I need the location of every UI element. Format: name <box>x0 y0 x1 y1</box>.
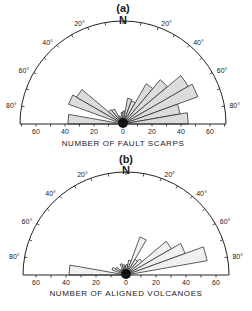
arc-tick <box>60 196 62 198</box>
angle-label-east: 40° <box>193 39 204 46</box>
arc-tick <box>224 257 227 258</box>
arc-tick <box>25 257 28 258</box>
panel-a-bars <box>68 76 198 129</box>
arc-tick <box>220 240 223 241</box>
x-tick-label: 20 <box>92 279 100 286</box>
angle-label-west: 40° <box>45 190 56 197</box>
angle-label-east: 20° <box>161 20 172 27</box>
arc-tick <box>105 23 106 26</box>
x-tick-label: 60 <box>32 128 40 135</box>
angle-label-east: 60° <box>217 67 228 74</box>
rose-diagram-figure: (a) N 20°20°40°40°60°60°80°80° 604020020… <box>0 0 252 311</box>
angle-label-west: 40° <box>42 39 53 46</box>
x-tick-label: 20 <box>148 128 156 135</box>
x-tick-label: 60 <box>206 128 214 135</box>
angle-label-east: 40° <box>196 190 207 197</box>
x-tick-label: 20 <box>152 279 160 286</box>
angle-label-west: 60° <box>19 67 30 74</box>
panel-b-axis-title: NUMBER OF ALIGNED VOLCANOES <box>49 289 202 298</box>
arc-tick <box>221 106 224 107</box>
arc-tick <box>47 209 49 211</box>
arc-tick <box>88 27 89 30</box>
arc-tick <box>200 58 202 60</box>
panel-a-angle-labels: 20°20°40°40°60°60°80°80° <box>6 20 240 108</box>
angle-label-east: 80° <box>232 253 243 260</box>
arc-tick <box>72 35 74 38</box>
panel-a-title: (a) <box>116 2 130 14</box>
x-tick-label: 40 <box>61 128 69 135</box>
arc-tick <box>173 35 175 38</box>
x-tick-label: 0 <box>121 128 125 135</box>
arc-tick <box>213 224 216 226</box>
x-tick-label: 60 <box>32 279 40 286</box>
arc-tick <box>187 45 189 47</box>
angle-label-east: 80° <box>229 102 240 109</box>
arc-tick <box>75 186 77 189</box>
angle-label-east: 60° <box>220 218 231 225</box>
arc-tick <box>160 178 161 181</box>
arc-tick <box>210 73 213 75</box>
arc-tick <box>143 174 144 177</box>
arc-tick <box>57 45 59 47</box>
arc-tick <box>44 58 46 60</box>
arc-tick <box>203 209 205 211</box>
panel-a-fault-scarps: (a) N 20°20°40°40°60°60°80°80° 604020020… <box>6 2 240 148</box>
arc-tick <box>34 73 37 75</box>
panel-a-x-tick-labels: 6040200204060 <box>32 128 214 135</box>
panel-b-aligned-volcanoes: (b) N 20°20°40°40°60°60°80°80° 604020020… <box>9 153 243 298</box>
panel-a-north-label: N <box>119 14 127 26</box>
arc-tick <box>108 174 109 177</box>
angle-label-west: 20° <box>74 20 85 27</box>
x-tick-label: 60 <box>212 279 220 286</box>
arc-tick <box>91 178 92 181</box>
arc-tick <box>22 106 25 107</box>
x-tick-label: 40 <box>62 279 70 286</box>
panel-b-angle-labels: 20°20°40°40°60°60°80°80° <box>9 171 243 259</box>
panel-a-axis-title: NUMBER OF FAULT SCARPS <box>62 139 185 148</box>
arc-tick <box>157 27 158 30</box>
x-tick-label: 40 <box>182 279 190 286</box>
arc-tick <box>217 89 220 90</box>
angle-label-west: 20° <box>77 171 88 178</box>
x-tick-label: 0 <box>124 279 128 286</box>
x-tick-label: 40 <box>177 128 185 135</box>
arc-tick <box>37 224 40 226</box>
angle-label-east: 20° <box>164 171 175 178</box>
arc-tick <box>140 23 141 26</box>
outer-arc <box>20 21 226 124</box>
angle-label-west: 80° <box>6 102 17 109</box>
x-tick-label: 20 <box>90 128 98 135</box>
panel-b-bars <box>69 237 207 279</box>
arc-tick <box>176 186 178 189</box>
arc-tick <box>190 196 192 198</box>
arc-tick <box>26 89 29 90</box>
arc-tick <box>29 240 32 241</box>
angle-label-west: 80° <box>9 253 20 260</box>
angle-label-west: 60° <box>22 218 33 225</box>
panel-b-x-tick-labels: 6040200204060 <box>32 279 220 286</box>
